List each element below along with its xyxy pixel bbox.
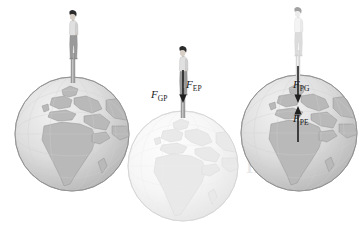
earth-globe-left <box>14 76 130 192</box>
force-subscript-pe: PE <box>300 118 309 127</box>
force-subscript-gp: GP <box>158 94 168 103</box>
force-label-pe: FPE <box>293 113 309 124</box>
force-label-pg: FPG <box>293 79 310 90</box>
force-subscript-pg: PG <box>300 84 310 93</box>
force-label-gp: FGP <box>151 89 168 100</box>
person-figure-right <box>287 5 309 57</box>
force-symbol-ep: F <box>186 78 193 90</box>
earth-globe-left-graphic <box>14 76 130 192</box>
earth-globe-middle-graphic <box>127 110 239 222</box>
earth-globe-middle <box>127 110 239 222</box>
force-symbol-pe: F <box>293 112 300 124</box>
force-symbol-gp: F <box>151 88 158 100</box>
gravitation-force-diagram: notes <box>0 0 359 238</box>
force-symbol-pg: F <box>293 78 300 90</box>
force-subscript-ep: EP <box>193 84 202 93</box>
person-figure-left <box>62 8 84 60</box>
force-label-ep: FEP <box>186 79 202 90</box>
